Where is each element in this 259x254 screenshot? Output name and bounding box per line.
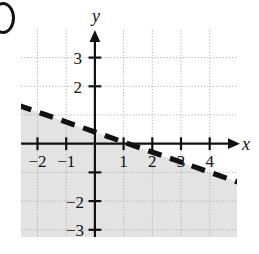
x-tick-label-1: 1 bbox=[119, 152, 128, 171]
y-axis-label: y bbox=[90, 6, 100, 26]
x-axis-label: x bbox=[241, 134, 250, 154]
figure-panel: −2 −1 1 2 3 4 3 2 −2 −3 x y bbox=[0, 0, 259, 254]
x-axis-arrow-icon bbox=[228, 138, 240, 149]
y-tick-label-2: 2 bbox=[74, 78, 83, 97]
shaded-solution-region bbox=[21, 106, 237, 237]
x-tick-label--2: −2 bbox=[28, 152, 46, 171]
x-tick-label-4: 4 bbox=[205, 152, 214, 171]
y-tick-label--3: −3 bbox=[66, 221, 84, 240]
x-tick-label-2: 2 bbox=[148, 152, 157, 171]
coordinate-plane: −2 −1 1 2 3 4 3 2 −2 −3 x y bbox=[0, 0, 259, 254]
y-tick-label--2: −2 bbox=[66, 193, 84, 212]
y-tick-label-3: 3 bbox=[74, 49, 83, 68]
x-tick-label-3: 3 bbox=[177, 152, 186, 171]
y-axis-arrow-icon bbox=[90, 30, 101, 42]
x-tick-label--1: −1 bbox=[57, 152, 75, 171]
